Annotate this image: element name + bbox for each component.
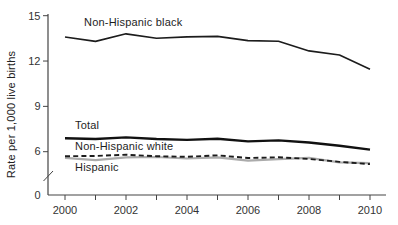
y-tick-label: 15 [28, 10, 40, 22]
series-line-non-hispanic-black [65, 34, 370, 69]
x-tick-label: 2010 [358, 204, 382, 216]
series-label-non-hispanic-white: Non-Hispanic white [75, 140, 173, 152]
infant-mortality-line-chart: 2000200220042006200820100691215 Rate per… [0, 0, 398, 225]
y-tick-label: 0 [34, 189, 40, 201]
y-axis-title: Rate per 1,000 live births [5, 45, 18, 185]
x-tick-label: 2002 [114, 204, 138, 216]
chart-canvas: 2000200220042006200820100691215 [0, 0, 398, 225]
series-label-total: Total [75, 119, 99, 131]
x-tick-label: 2004 [175, 204, 199, 216]
y-tick-label: 9 [34, 100, 40, 112]
series-label-non-hispanic-black: Non-Hispanic black [84, 16, 182, 28]
x-tick-label: 2006 [236, 204, 260, 216]
y-tick-label: 6 [34, 145, 40, 157]
series-label-hispanic: Hispanic [75, 161, 119, 173]
x-tick-label: 2000 [53, 204, 77, 216]
y-tick-label: 12 [28, 55, 40, 67]
x-tick-label: 2008 [297, 204, 321, 216]
